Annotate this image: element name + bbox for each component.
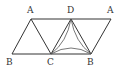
segment-A-C — [31, 19, 51, 54]
label-A-right: A — [106, 5, 114, 15]
label-A-left: A — [26, 5, 34, 15]
segment-A-B-right — [91, 19, 111, 54]
label-B-right: B — [87, 57, 94, 67]
segment-D-B — [71, 19, 91, 54]
geometry-diagram: A D A B C B — [0, 0, 120, 74]
arcs — [51, 19, 91, 54]
segment-D-C — [51, 19, 71, 54]
label-D: D — [67, 5, 74, 15]
label-B-left: B — [6, 57, 13, 67]
segment-A-B — [12, 19, 31, 54]
segments — [12, 19, 111, 54]
label-C: C — [47, 57, 54, 67]
